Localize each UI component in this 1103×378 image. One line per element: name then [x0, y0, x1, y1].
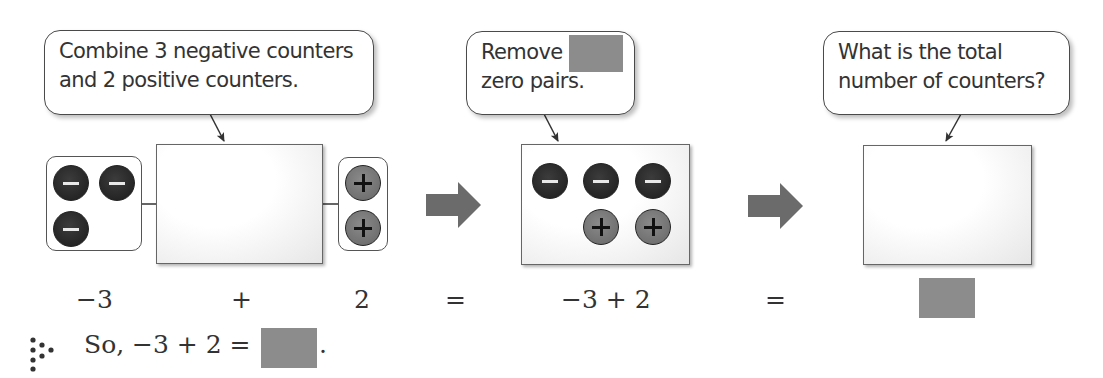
- conclusion-answer-blank[interactable]: [261, 328, 317, 368]
- positive-counter-icon: [345, 165, 381, 201]
- zero-pairs-count-blank[interactable]: [569, 35, 623, 72]
- callout-total-line2: number of counters?: [838, 67, 1069, 96]
- callout3-pointer: [946, 114, 961, 141]
- callout1-pointer: [210, 114, 224, 141]
- callout-combine: Combine 3 negative counters and 2 positi…: [44, 30, 374, 115]
- equation-equals-1: =: [445, 285, 466, 314]
- equation-equals-2: =: [765, 285, 786, 314]
- positive-counter-icon: [345, 210, 381, 246]
- positive-counter-group: [338, 157, 388, 251]
- conclusion-text: So, −3 + 2 =: [84, 330, 251, 359]
- negative-counter-icon: [583, 163, 619, 199]
- negative-counter-icon: [99, 165, 135, 201]
- callout-total: What is the total number of counters?: [823, 31, 1070, 115]
- negative-counter-group: [46, 156, 142, 251]
- equation-plus: +: [231, 285, 252, 314]
- positive-counter-icon: [635, 209, 671, 245]
- answer-blank[interactable]: [919, 278, 975, 318]
- equation-expression: −3 + 2: [561, 285, 651, 314]
- equation-negative-three: −3: [76, 285, 113, 314]
- conclusion-period: .: [319, 330, 327, 359]
- callout2-pointer: [544, 114, 558, 141]
- step-arrow-icon: [426, 182, 482, 228]
- zero-pairs-mat: [521, 144, 690, 265]
- negative-counter-icon: [53, 211, 89, 247]
- equation-two: 2: [354, 285, 370, 314]
- negative-counter-icon: [53, 165, 89, 201]
- callout-remove-zero-pairs: Remove zero pairs.: [466, 31, 635, 115]
- negative-counter-icon: [635, 163, 671, 199]
- step-arrow-icon: [748, 183, 804, 229]
- negative-counter-icon: [532, 163, 568, 199]
- positive-counter-icon: [583, 209, 619, 245]
- result-mat: [863, 145, 1032, 265]
- callout-combine-line2: and 2 positive counters.: [59, 66, 373, 95]
- combine-mat: [156, 144, 323, 264]
- callout-combine-line1: Combine 3 negative counters: [59, 37, 373, 66]
- callout-total-line1: What is the total: [838, 38, 1069, 67]
- therefore-dots-icon: [28, 334, 58, 372]
